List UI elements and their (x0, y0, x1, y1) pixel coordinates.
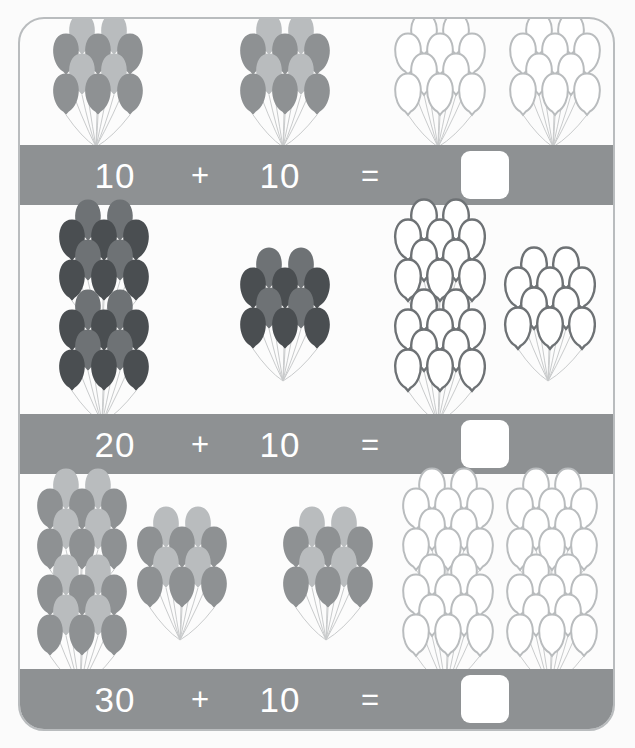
addend2-cluster-1 (278, 504, 374, 642)
problem-3-answer-slot (450, 669, 520, 729)
balloon (201, 567, 227, 608)
balloon (539, 615, 565, 656)
problem-3-equals-slot: = (345, 669, 395, 729)
balloon (69, 615, 95, 656)
problem-3-addend2-slot: 10 (245, 669, 315, 729)
balloon (137, 567, 163, 608)
balloon (169, 567, 195, 608)
problem-3-answer-box[interactable] (461, 675, 509, 723)
balloon (315, 567, 341, 608)
problem-3-addend1: 30 (95, 682, 136, 717)
balloon (101, 615, 127, 656)
balloon (571, 615, 597, 656)
problem-3-equals-sign: = (361, 684, 379, 715)
balloon (37, 615, 63, 656)
problem-3: 30+10= (20, 19, 613, 729)
problem-3-addend1-slot: 30 (80, 669, 150, 729)
problem-3-plus-slot: + (175, 669, 225, 729)
problem-3-equation-bar: 30+10= (20, 669, 613, 729)
balloon (347, 567, 373, 608)
balloon (507, 615, 533, 656)
worksheet-page: 10+10=20+10=30+10= (0, 0, 635, 748)
balloon (467, 615, 493, 656)
balloon (283, 567, 309, 608)
problem-3-plus-sign: + (191, 684, 209, 715)
problem-rows: 10+10=20+10=30+10= (20, 19, 613, 729)
balloon (403, 615, 429, 656)
balloon (435, 615, 461, 656)
problem-3-addend2: 10 (260, 682, 301, 717)
problem-3-picture-area (20, 474, 613, 669)
addend1-cluster-3 (132, 504, 228, 642)
worksheet-frame: 10+10=20+10=30+10= (18, 17, 615, 731)
